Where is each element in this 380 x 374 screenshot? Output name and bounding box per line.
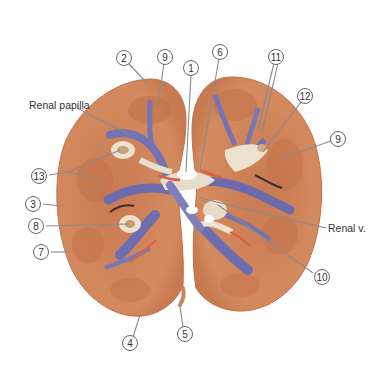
svg-text:1: 1: [188, 63, 194, 74]
callout-4: 4: [123, 336, 138, 351]
callout-12: 12: [298, 89, 313, 104]
callout-3: 3: [26, 197, 41, 212]
left-kidney-half: [57, 79, 186, 316]
svg-text:12: 12: [299, 91, 311, 102]
svg-text:2: 2: [121, 53, 127, 64]
callout-13: 13: [32, 169, 47, 184]
svg-text:6: 6: [217, 47, 223, 58]
callout-9-top: 9: [158, 50, 173, 65]
callout-7: 7: [34, 245, 49, 260]
svg-text:3: 3: [30, 199, 36, 210]
callout-10: 10: [315, 270, 330, 285]
callout-2: 2: [117, 51, 132, 66]
svg-text:5: 5: [182, 329, 188, 340]
svg-text:8: 8: [33, 221, 39, 232]
kidney-section-figure: Renal papilla Renal v. 2 9 1 6 11 12 9 1…: [0, 0, 380, 374]
svg-text:13: 13: [33, 171, 45, 182]
callout-6: 6: [213, 45, 228, 60]
callout-5: 5: [178, 327, 193, 342]
svg-text:9: 9: [162, 52, 168, 63]
right-kidney-half: [175, 77, 322, 311]
label-renal-papilla: Renal papilla: [29, 99, 90, 111]
callout-1: 1: [184, 61, 199, 76]
callout-11: 11: [269, 50, 284, 65]
svg-text:4: 4: [127, 338, 133, 349]
callout-9-right: 9: [331, 132, 346, 147]
label-renal-vein: Renal v.: [328, 222, 366, 234]
svg-text:9: 9: [335, 134, 341, 145]
svg-text:7: 7: [38, 247, 44, 258]
callout-8: 8: [29, 219, 44, 234]
svg-text:10: 10: [316, 272, 328, 283]
svg-text:11: 11: [271, 52, 282, 63]
